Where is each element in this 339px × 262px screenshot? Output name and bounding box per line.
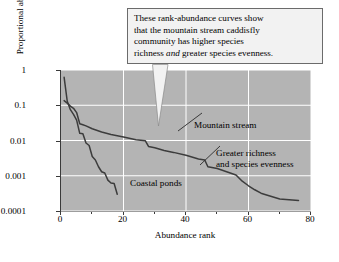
y-tick-label-0.01: 0.01 [10, 137, 26, 146]
series-coastal-ponds [64, 77, 117, 194]
callout-line-3: community has higher species [134, 36, 317, 48]
x-tick-label-20: 20 [108, 215, 138, 224]
x-tick-label-40: 40 [170, 215, 200, 224]
data-curves [61, 70, 311, 211]
y-tick-label-0.001: 0.001 [5, 172, 26, 181]
callout-line-4: richness and greater species evenness. [134, 48, 317, 60]
annotation-greater-richness-line1: Greater richness [216, 148, 294, 159]
annotation-greater-richness-line2: and species evenness [216, 159, 294, 170]
callout-line-4-part-b: greater species evenness. [180, 48, 273, 58]
rank-abundance-figure: Proportional abundance 1 0.1 0.01 0.001 … [0, 0, 339, 262]
x-tick-label-60: 60 [233, 215, 263, 224]
x-axis-title: Abundance rank [60, 231, 310, 240]
plot-area [60, 70, 311, 212]
annotation-coastal-ponds: Coastal ponds [130, 178, 182, 189]
y-tick-label-0.1: 0.1 [15, 101, 26, 110]
callout-line-4-italic: and [166, 48, 180, 58]
x-tick-label-0: 0 [45, 215, 75, 224]
annotation-greater-richness: Greater richness and species evenness [216, 148, 294, 170]
y-tick-label-1: 1 [21, 66, 26, 75]
callout-line-1: These rank-abundance curves show [134, 13, 317, 25]
callout-line-2: that the mountain stream caddisfly [134, 25, 317, 37]
annotation-mountain-stream: Mountain stream [194, 120, 257, 131]
callout-line-4-part-a: richness [134, 48, 166, 58]
callout-pointer-tail [152, 64, 174, 128]
x-tick-label-80: 80 [295, 215, 325, 224]
callout-box: These rank-abundance curves show that th… [127, 8, 323, 64]
y-tick-label-0.0001: 0.0001 [1, 207, 26, 216]
